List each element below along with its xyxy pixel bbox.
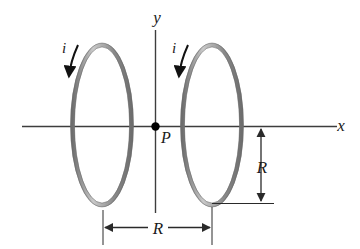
right-loop-ring	[183, 45, 242, 205]
left-loop	[71, 43, 134, 207]
physics-diagram-figure: y x i i P	[0, 0, 360, 249]
y-axis-label: y	[151, 8, 161, 27]
left-loop-ring	[73, 45, 132, 205]
coordinate-axes	[22, 30, 337, 213]
left-current-label: i	[62, 40, 66, 56]
point-p-dot	[151, 122, 159, 130]
x-axis-label: x	[336, 116, 345, 135]
right-loop	[181, 43, 244, 207]
loop-radius-label: R	[256, 158, 268, 177]
right-current-label: i	[172, 40, 176, 56]
point-p	[151, 122, 159, 130]
point-p-label: P	[160, 129, 171, 146]
left-current-arrow	[69, 45, 78, 76]
loop-separation-label: R	[152, 219, 164, 238]
diagram-canvas: y x i i P	[0, 0, 360, 249]
right-current-arrow	[179, 45, 188, 76]
